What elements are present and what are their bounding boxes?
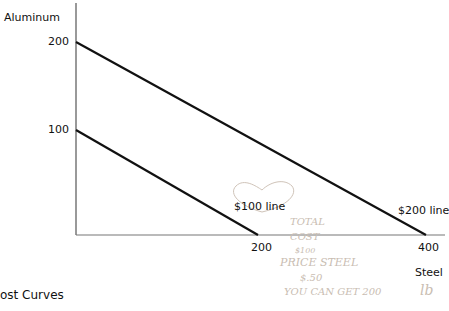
note-total: TOTAL (290, 216, 325, 227)
line-100-label: $100 line (234, 200, 285, 213)
y-tick-100: 100 (48, 123, 69, 136)
y-axis-label: Aluminum (4, 11, 60, 24)
x-axis-label: Steel (415, 266, 443, 279)
x-tick-400: 400 (418, 241, 439, 254)
note-price: $.50 (300, 272, 322, 283)
note-you-can-get: YOU CAN GET 200 (284, 286, 381, 297)
line-200-label: $200 line (398, 204, 449, 217)
note-price-steel: PRICE STEEL (280, 256, 358, 269)
x-tick-200: 200 (251, 241, 272, 254)
line-100 (76, 130, 258, 235)
note-amount: $100 (295, 246, 315, 255)
y-tick-200: 200 (48, 35, 69, 48)
note-lb: lb (420, 282, 433, 298)
note-cost: COST (290, 231, 319, 242)
chart-title: ost Curves (0, 288, 64, 302)
